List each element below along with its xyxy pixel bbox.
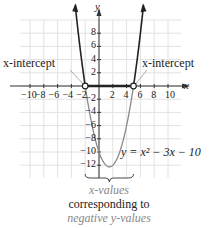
y-tick-label: 4	[91, 53, 96, 64]
caption-line-3: negative y-values	[0, 211, 218, 226]
equation-label: y = x² − 3x − 10	[121, 145, 201, 160]
caption-line-1: x-values	[0, 183, 218, 198]
x-tick-label: 6	[137, 89, 142, 100]
x-tick-label: 8	[151, 89, 156, 100]
y-tick-label: −6	[85, 119, 96, 130]
y-tick-label: −12	[80, 158, 96, 169]
x-axis-label: x	[184, 79, 189, 91]
y-tick-label: 8	[91, 26, 96, 37]
y-tick-label: −10	[80, 145, 96, 156]
x-tick-label: −8	[35, 89, 46, 100]
x-tick-label: −6	[49, 89, 60, 100]
x-tick-label: 4	[124, 89, 129, 100]
y-axis-label: y	[95, 0, 100, 12]
x-tick-label: 10	[165, 89, 175, 100]
x-intercept-label-right: x-intercept	[142, 56, 194, 71]
y-tick-label: −8	[85, 132, 96, 143]
y-tick-label: −2	[85, 92, 96, 103]
y-tick-label: 2	[91, 66, 96, 77]
y-tick-label: 6	[91, 39, 96, 50]
y-tick-label: −4	[85, 105, 96, 116]
x-intercept-label-left: x-intercept	[3, 56, 55, 71]
caption-line-2: corresponding to	[0, 197, 218, 212]
x-tick-label: 2	[110, 89, 115, 100]
x-tick-label: −4	[62, 89, 73, 100]
